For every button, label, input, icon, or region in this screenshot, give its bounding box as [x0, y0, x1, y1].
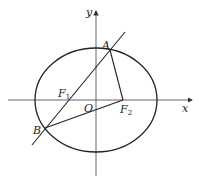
- point-F2-label: F2: [119, 103, 132, 117]
- segment-AF2: [110, 50, 123, 100]
- ellipse-diagram: y x O A B F1 F2: [0, 0, 199, 188]
- y-axis-label: y: [85, 6, 93, 19]
- diagram-canvas: y x O A B F1 F2: [0, 0, 199, 188]
- point-A-label: A: [101, 39, 110, 52]
- origin-label: O: [84, 102, 93, 115]
- x-axis-label: x: [182, 102, 189, 115]
- point-B-label: B: [32, 124, 41, 137]
- point-F1-label: F1: [57, 87, 70, 101]
